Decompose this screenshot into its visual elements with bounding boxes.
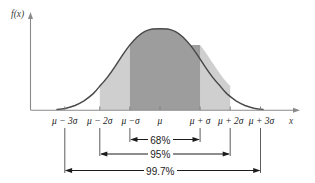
- normal-distribution-figure: f(x) x μ − 3σ μ − 2σ μ −σ μ μ + σ μ + 2σ…: [0, 0, 315, 183]
- arrowhead-right-68: [193, 137, 200, 142]
- x-axis-label: x: [288, 116, 294, 126]
- bracket-68-percent: 68%: [130, 133, 200, 146]
- arrowhead-left-997: [65, 168, 72, 173]
- shaded-area-one-sigma: [130, 29, 200, 110]
- x-tick-label-minus-1-sigma: μ −σ: [120, 116, 140, 126]
- arrowhead-right-95: [223, 151, 230, 156]
- x-tick-label-minus-2-sigma: μ − 2σ: [86, 116, 113, 126]
- y-axis-label: f(x): [11, 9, 24, 20]
- distribution-chart-svg: f(x) x μ − 3σ μ − 2σ μ −σ μ μ + σ μ + 2σ…: [0, 0, 315, 183]
- arrowhead-left-95: [100, 151, 107, 156]
- shaded-area-two-sigma-left: [100, 45, 130, 110]
- x-tick-label-minus-3-sigma: μ − 3σ: [51, 116, 78, 126]
- bracket-label-68: 68%: [150, 135, 170, 146]
- bracket-label-997: 99.7%: [146, 166, 174, 177]
- bracket-99-7-percent: 99.7%: [65, 164, 261, 177]
- shaded-area-two-sigma-right: [200, 45, 230, 110]
- bracket-label-95: 95%: [150, 149, 170, 160]
- bracket-95-percent: 95%: [100, 148, 230, 161]
- x-axis-tick-labels: μ − 3σ μ − 2σ μ −σ μ μ + σ μ + 2σ μ + 3σ: [51, 116, 274, 126]
- arrowhead-left-68: [130, 137, 137, 142]
- x-tick-label-plus-2-sigma: μ + 2σ: [217, 116, 244, 126]
- shaded-area-group: [100, 29, 230, 110]
- x-tick-label-plus-3-sigma: μ + 3σ: [248, 116, 275, 126]
- y-axis: [28, 12, 33, 110]
- arrowhead-right-997: [253, 168, 260, 173]
- x-tick-label-mu: μ: [157, 116, 163, 126]
- x-tick-label-plus-1-sigma: μ + σ: [189, 116, 211, 126]
